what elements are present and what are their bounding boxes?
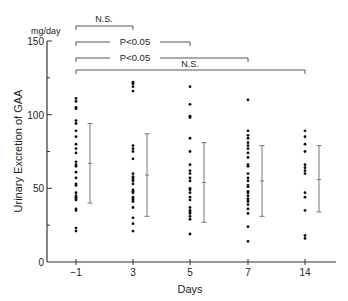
data-point [247,185,250,188]
data-point [75,165,78,168]
data-point [247,134,250,137]
data-point [189,180,192,183]
data-point [75,97,78,100]
data-point [189,212,192,215]
data-point [304,169,307,172]
data-point [75,191,78,194]
significance-brackets: N.S. P<0.05 P<0.05 N.S. [76,14,305,74]
data-point [75,122,78,125]
data-point [247,191,250,194]
sd-error-bar [317,146,322,212]
data-point [189,188,192,191]
data-point [75,129,78,132]
data-point [247,180,250,183]
data-point [75,199,78,202]
data-point [132,90,135,93]
y-tick-label-100: 100 [27,110,44,121]
data-point [132,183,135,186]
x-tick-label-3: 3 [130,267,136,278]
bracket-label-1: N.S. [95,14,113,24]
data-point [189,177,192,180]
data-point [75,160,78,163]
data-point [247,152,250,155]
data-point [189,169,192,172]
data-point [132,200,135,203]
data-point [247,208,250,211]
y-axis-title: Urinary Excretion of GAA [12,89,24,213]
data-point [75,171,78,174]
data-point [189,206,192,209]
data-point [304,191,307,194]
data-point [189,215,192,218]
data-point [247,147,250,150]
data-point [247,141,250,144]
x-axis-title: Days [177,283,203,295]
data-point [132,147,135,150]
data-point [247,240,250,243]
data-point [304,209,307,212]
data-point [189,137,192,140]
data-points [75,81,307,243]
bracket-ns-1 [76,26,133,30]
data-point [189,233,192,236]
y-unit-label: mg/day [31,26,61,36]
data-point [247,203,250,206]
y-ticks [47,41,52,225]
data-point [132,144,135,147]
data-point [304,166,307,169]
data-point [304,150,307,153]
data-point [247,156,250,159]
data-point [189,103,192,106]
data-point [75,100,78,103]
sd-error-bar [260,146,265,217]
x-tick-label-minus1: −1 [70,267,82,278]
data-point [189,199,192,202]
bracket-p-2 [76,58,248,62]
data-point [189,196,192,199]
data-point [247,194,250,197]
data-point [247,212,250,215]
data-point [304,234,307,237]
data-point [247,137,250,140]
data-point [75,119,78,122]
bracket-label-4: N.S. [181,59,199,69]
data-point [247,165,250,168]
bracket-ns-2 [76,70,305,74]
data-point [75,107,78,110]
x-tick-label-14: 14 [299,267,311,278]
error-bars [88,124,322,223]
data-point [247,172,250,175]
data-point [189,191,192,194]
data-point [132,216,135,219]
data-point [75,135,78,138]
data-point [132,157,135,160]
data-point [189,218,192,221]
data-point [304,129,307,132]
data-point [304,163,307,166]
sd-error-bar [88,124,93,204]
data-point [247,144,250,147]
data-point [189,172,192,175]
data-point [304,196,307,199]
data-point [75,152,78,155]
data-point [132,85,135,88]
data-point [247,99,250,102]
bracket-label-2: P<0.05 [120,36,150,47]
data-point [75,227,78,230]
data-point [304,237,307,240]
data-point [75,177,78,180]
data-point [75,209,78,212]
data-point [75,184,78,187]
data-point [247,177,250,180]
data-point [132,180,135,183]
data-point [75,230,78,233]
data-point [189,85,192,88]
y-tick-label-50: 50 [33,183,45,194]
y-tick-label-0: 0 [38,257,44,268]
data-point [189,116,192,119]
data-point [75,143,78,146]
data-point [247,129,250,132]
data-point [132,82,135,85]
data-point [132,150,135,153]
data-point [132,222,135,225]
